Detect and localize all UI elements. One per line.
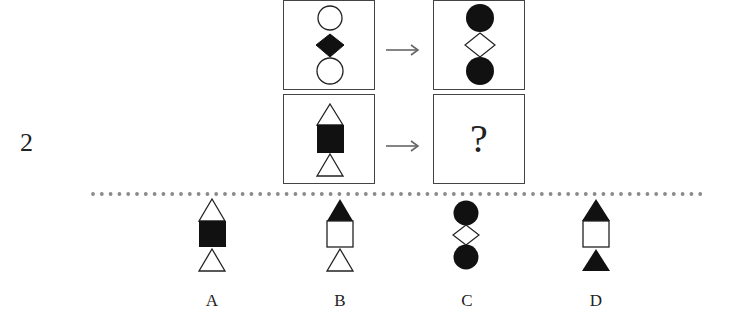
black-circle-icon: [454, 201, 479, 226]
option-c-label[interactable]: C: [452, 291, 482, 311]
divider-dot: [417, 192, 421, 196]
divider-dot: [514, 192, 518, 196]
black-square-icon: [199, 221, 226, 247]
divider-dot: [698, 192, 702, 196]
divider-dot: [382, 192, 386, 196]
divider-dot: [646, 192, 650, 196]
white-circle-icon: [318, 6, 342, 30]
black-circle-icon: [466, 57, 494, 85]
divider-dot: [390, 192, 394, 196]
option-b-label[interactable]: B: [325, 291, 355, 311]
divider-dot: [496, 192, 500, 196]
divider-dot: [426, 192, 430, 196]
question-number: 2: [20, 128, 33, 158]
query-source-box: [283, 94, 375, 184]
divider-dot: [663, 192, 667, 196]
black-triangle-icon: [582, 249, 610, 271]
black-triangle-icon: [327, 199, 353, 221]
black-circle-icon: [454, 245, 479, 270]
white-square-icon: [583, 221, 609, 247]
divider-dot: [302, 192, 306, 196]
divider-dot: [558, 192, 562, 196]
white-triangle-icon: [317, 104, 343, 125]
white-triangle-icon: [327, 249, 353, 271]
divider-dot: [258, 192, 262, 196]
query-source-figure: [284, 95, 376, 185]
divider-dot: [628, 192, 632, 196]
divider-dot: [654, 192, 658, 196]
divider-dot: [690, 192, 694, 196]
divider-dot: [672, 192, 676, 196]
white-square-icon: [327, 221, 353, 247]
black-triangle-icon: [582, 199, 610, 221]
black-diamond-icon: [316, 34, 344, 57]
divider-dot: [681, 192, 685, 196]
option-a-figure[interactable]: [182, 196, 242, 276]
white-triangle-icon: [199, 199, 225, 221]
divider-dot: [522, 192, 526, 196]
example-source-figure: [284, 1, 376, 91]
option-d-figure[interactable]: [566, 196, 626, 276]
divider-dot: [637, 192, 641, 196]
right-arrow-icon: [386, 42, 420, 54]
white-circle-icon: [317, 58, 343, 84]
white-diamond-icon: [465, 33, 495, 57]
divider-dot: [126, 192, 130, 196]
divider-dot: [549, 192, 553, 196]
divider-dot: [408, 192, 412, 196]
option-a-label[interactable]: A: [197, 291, 227, 311]
divider-dot: [162, 192, 166, 196]
divider-dot: [531, 192, 535, 196]
divider-dot: [267, 192, 271, 196]
white-diamond-icon: [453, 225, 479, 245]
divider-dot: [505, 192, 509, 196]
divider-dot: [276, 192, 280, 196]
dotted-divider: [0, 188, 740, 200]
white-triangle-icon: [199, 249, 225, 271]
divider-dot: [118, 192, 122, 196]
divider-dot: [170, 192, 174, 196]
example-source-box: [283, 0, 375, 90]
black-circle-icon: [466, 4, 494, 32]
query-target-box: ?: [433, 94, 525, 184]
divider-dot: [540, 192, 544, 196]
question-mark: ?: [433, 117, 525, 161]
right-arrow-icon: [386, 138, 420, 150]
divider-dot: [109, 192, 113, 196]
white-triangle-icon: [317, 154, 343, 176]
divider-dot: [399, 192, 403, 196]
divider-dot: [144, 192, 148, 196]
divider-dot: [153, 192, 157, 196]
black-square-icon: [317, 125, 344, 153]
option-c-figure[interactable]: [436, 196, 496, 276]
option-b-figure[interactable]: [310, 196, 370, 276]
divider-dot: [250, 192, 254, 196]
divider-dot: [294, 192, 298, 196]
divider-dot: [100, 192, 104, 196]
divider-dot: [91, 192, 95, 196]
divider-dot: [285, 192, 289, 196]
example-target-box: [433, 0, 525, 90]
example-target-figure: [434, 1, 526, 91]
option-d-label[interactable]: D: [581, 291, 611, 311]
divider-dot: [135, 192, 139, 196]
divider-dot: [373, 192, 377, 196]
